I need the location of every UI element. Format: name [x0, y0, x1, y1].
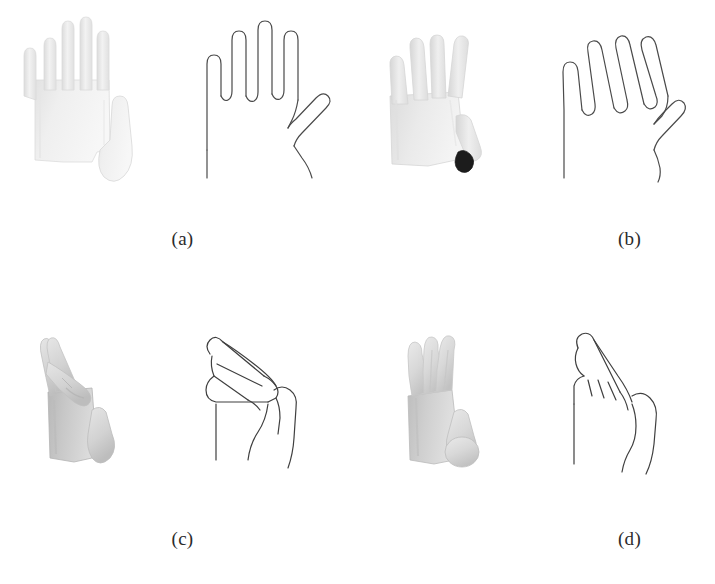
panel-b: (b): [358, 0, 715, 292]
panel-c-figures: [0, 292, 357, 517]
line-drawing-hand-c: [176, 292, 354, 517]
grayscale-hand-render-d: [358, 292, 536, 517]
panel-c: (c): [0, 292, 357, 584]
panel-b-figures: [358, 0, 715, 225]
grayscale-hand-render-a: [0, 0, 178, 225]
hand-c-geometry: [40, 338, 114, 463]
figure-root: (a): [0, 0, 715, 584]
panel-d: (d): [358, 292, 715, 584]
hand-b-outline-geometry: [563, 36, 685, 182]
hand-c-outline-geometry: [206, 337, 296, 468]
hand-d-outline-geometry: [574, 333, 656, 474]
line-drawing-hand-d: [534, 292, 712, 517]
panel-a: (a): [0, 0, 357, 292]
grayscale-hand-render-c: [0, 292, 178, 517]
panel-label-d: (d): [358, 528, 715, 550]
panel-label-c: (c): [0, 528, 357, 550]
panel-a-figures: [0, 0, 357, 225]
hand-d-geometry: [408, 336, 479, 467]
panel-d-figures: [358, 292, 715, 517]
line-drawing-hand-b: [534, 0, 712, 225]
hand-b-geometry: [390, 35, 482, 173]
panel-label-b: (b): [358, 228, 715, 250]
hand-a-geometry: [24, 17, 132, 181]
line-drawing-hand-a: [176, 0, 354, 225]
hand-a-outline-geometry: [207, 21, 330, 178]
grayscale-hand-render-b: [358, 0, 536, 225]
panel-label-a: (a): [0, 228, 357, 250]
